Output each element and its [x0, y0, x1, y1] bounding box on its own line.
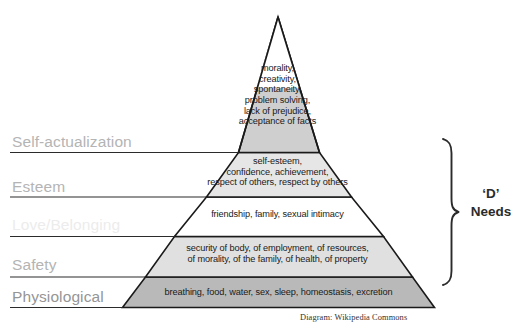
- pyramid-tier-physiological: [123, 277, 435, 308]
- attribution-text: Diagram: Wikipedia Commons: [300, 313, 480, 322]
- pyramid-apex-highlight: [256, 17, 300, 88]
- d-needs-label-line1: ‘D’: [462, 185, 520, 203]
- pyramid-tier-safety: [146, 237, 413, 278]
- d-needs-label: ‘D’ Needs: [462, 185, 520, 221]
- tier-label-safety: Safety: [12, 256, 57, 274]
- pyramid-tier-esteem: [207, 153, 352, 198]
- tier-label-physiological: Physiological: [12, 288, 104, 306]
- d-needs-label-line2: Needs: [462, 203, 520, 221]
- tier-label-esteem: Esteem: [12, 178, 65, 196]
- tier-label-self-actualization: Self-actualization: [12, 133, 132, 151]
- maslow-hierarchy-diagram: morality, creativity, spontaneity, probl…: [0, 0, 523, 333]
- pyramid-tier-love-belonging: [175, 197, 384, 237]
- pyramid-graphic: [0, 0, 523, 333]
- d-needs-bracket: [443, 139, 459, 285]
- tier-label-love-belonging: Love/Belonging: [12, 216, 120, 234]
